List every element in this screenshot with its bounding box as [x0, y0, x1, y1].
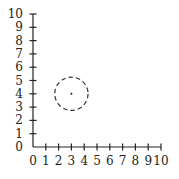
y-tick-label: 10 — [8, 7, 23, 21]
y-tick-label: 7 — [15, 47, 23, 61]
y-tick-label: 0 — [15, 140, 23, 154]
x-tick-label: 8 — [132, 154, 140, 168]
y-tick-label: 1 — [15, 127, 23, 141]
x-tick-label: 7 — [119, 154, 127, 168]
y-tick-label: 2 — [15, 113, 23, 127]
y-tick-label: 5 — [15, 74, 23, 88]
x-tick-label: 1 — [42, 154, 50, 168]
x-tick-label: 2 — [55, 154, 63, 168]
y-tick-label: 3 — [15, 100, 23, 114]
circle-center-point — [70, 93, 72, 95]
x-tick-label: 4 — [80, 154, 88, 168]
x-tick-label: 6 — [106, 154, 114, 168]
x-tick-label: 3 — [68, 154, 76, 168]
axes — [30, 14, 162, 151]
x-tick-label: 9 — [144, 154, 152, 168]
y-tick-label: 8 — [15, 34, 23, 48]
x-tick-label: 0 — [29, 154, 37, 168]
x-tick-label: 5 — [93, 154, 101, 168]
y-axis-labels: 012345678910 — [8, 7, 24, 154]
y-tick-label: 6 — [15, 60, 23, 74]
x-tick-label: 10 — [153, 154, 168, 168]
x-axis-labels: 012345678910 — [29, 154, 168, 168]
y-tick-label: 4 — [15, 87, 23, 101]
y-tick-label: 9 — [15, 20, 23, 34]
coordinate-plane: 012345678910 012345678910 — [0, 0, 179, 179]
